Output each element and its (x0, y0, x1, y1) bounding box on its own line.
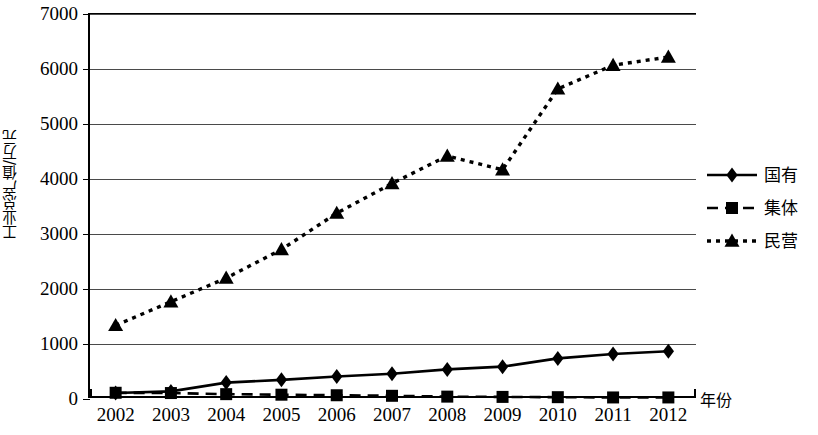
y-axis-tick-labels: 01000200030004000500060007000 (20, 0, 82, 435)
data-point-marker (606, 58, 621, 71)
data-point-marker (331, 369, 342, 384)
data-point-marker (662, 391, 674, 403)
y-axis-tick-label: 6000 (40, 59, 78, 78)
legend-item-label: 民营 (764, 232, 798, 250)
y-axis-tick-label: 4000 (40, 169, 78, 188)
x-axis-tick-label: 2011 (594, 404, 631, 426)
x-axis-tick-label: 2002 (97, 404, 135, 426)
x-axis-tick-label: 2006 (318, 404, 356, 426)
data-point-marker (440, 149, 455, 162)
y-axis-tick-label: 2000 (40, 279, 78, 298)
legend-swatch-icon (706, 166, 758, 184)
x-axis-tick-label: 2004 (207, 404, 245, 426)
data-point-marker (661, 50, 676, 63)
data-point-marker (331, 389, 343, 401)
x-axis-tick-label: 2012 (649, 404, 687, 426)
data-point-marker (220, 388, 232, 400)
series-triangle (108, 50, 676, 332)
data-point-marker (165, 387, 177, 399)
data-point-marker (442, 362, 453, 377)
data-point-marker (274, 242, 289, 255)
y-axis-tick-label: 1000 (40, 334, 78, 353)
data-point-marker (110, 387, 122, 399)
series-layer (88, 13, 696, 398)
data-point-marker (607, 391, 619, 403)
legend: 国有集体民营 (706, 158, 814, 257)
x-axis-tick-labels: 2002200320042005200620072008200920102011… (88, 404, 696, 434)
y-axis-tick-label: 3000 (40, 224, 78, 243)
data-point-marker (386, 366, 397, 381)
data-point-marker (108, 318, 123, 331)
data-point-marker (497, 359, 508, 374)
legend-swatch-icon (706, 232, 758, 250)
data-point-marker (552, 351, 563, 366)
series-square (110, 387, 675, 404)
y-axis-tick-label: 5000 (40, 114, 78, 133)
x-axis-tick-label: 2008 (428, 404, 466, 426)
data-point-marker (497, 391, 509, 403)
legend-item-民营[interactable]: 民营 (706, 224, 814, 257)
legend-item-label: 集体 (764, 199, 798, 217)
x-axis-tick-label: 2003 (152, 404, 190, 426)
data-point-marker (221, 375, 232, 390)
y-axis-tick-label: 0 (69, 389, 79, 408)
x-axis-tick-label: 2009 (484, 404, 522, 426)
data-point-marker (552, 391, 564, 403)
x-axis-tick-label: 2005 (262, 404, 300, 426)
x-axis-tick-label: 2010 (539, 404, 577, 426)
legend-item-国有[interactable]: 国有 (706, 158, 814, 191)
legend-item-label: 国有 (764, 166, 798, 184)
x-axis-tick-label: 2007 (373, 404, 411, 426)
data-point-marker (276, 372, 287, 387)
x-axis-title: 年份 (700, 392, 732, 410)
data-point-marker (441, 391, 453, 403)
line-chart: 工业总产值/万元 01000200030004000500060007000 2… (0, 0, 818, 435)
data-point-marker (219, 271, 234, 284)
data-point-marker (275, 389, 287, 401)
legend-item-集体[interactable]: 集体 (706, 191, 814, 224)
series-line (116, 57, 669, 325)
legend-swatch-icon (706, 199, 758, 217)
y-axis-tick-mark (83, 399, 90, 400)
data-point-marker (386, 390, 398, 402)
data-point-marker (607, 347, 618, 362)
y-axis-tick-label: 7000 (40, 4, 78, 23)
data-point-marker (663, 344, 674, 359)
